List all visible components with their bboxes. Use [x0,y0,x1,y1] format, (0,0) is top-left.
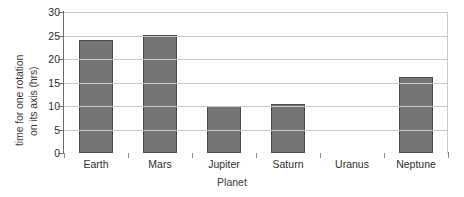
plot-area [64,12,448,153]
y-axis-tick-mark [58,106,64,107]
x-axis-category-label-uranus: Uranus [335,158,369,170]
x-axis-category-label-jupiter: Jupiter [208,158,240,170]
gridline [64,36,447,37]
x-axis-tick-mark [192,153,193,158]
x-axis-tick-mark [64,153,65,158]
bar-saturn [271,104,304,153]
gridline [64,12,447,13]
y-axis-tick-mark [58,12,64,13]
gridline [64,106,447,107]
x-axis-tick-mark [128,153,129,158]
x-axis-category-label-neptune: Neptune [396,158,436,170]
y-axis-tick-mark [58,59,64,60]
y-axis-title-line-2: on its axis (hrs) [27,67,39,136]
x-axis-tick-mark [256,153,257,158]
x-axis-tick-mark [320,153,321,158]
x-axis-title: Planet [0,176,464,188]
y-axis-tick-mark [58,36,64,37]
x-axis-category-label-mars: Mars [148,158,171,170]
y-axis-title-line-1: time for one rotation [13,55,25,146]
gridline [64,130,447,131]
bar-mars [143,35,176,153]
gridline [64,59,447,60]
bar-neptune [399,77,432,153]
y-axis-tick-labels: 051015202530 [40,0,60,155]
y-axis-tick-mark [58,130,64,131]
y-axis-title: time for one rotation on its axis (hrs) [0,0,44,160]
x-axis-tick-mark [384,153,385,158]
gridline [64,83,447,84]
y-axis-tick-mark [58,83,64,84]
bar-chart-figure: time for one rotation on its axis (hrs) … [0,0,464,197]
x-axis-tick-mark [448,153,449,158]
x-axis-category-label-saturn: Saturn [273,158,304,170]
x-axis-category-label-earth: Earth [83,158,108,170]
bar-earth [79,40,112,153]
